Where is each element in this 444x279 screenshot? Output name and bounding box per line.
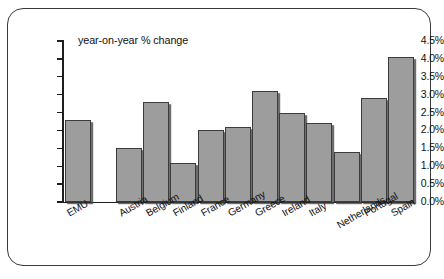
- y-axis-tick: [57, 58, 62, 59]
- y-axis-line: [62, 40, 64, 203]
- bar: [198, 130, 224, 202]
- y-axis-tick-label: 4.5%: [392, 34, 444, 46]
- y-axis-tick: [57, 183, 62, 184]
- bar-chart: year-on-year % change 0.0%0.5%1.0%1.5%2.…: [0, 0, 444, 279]
- bar: [225, 127, 251, 202]
- y-axis-tick: [57, 94, 62, 95]
- bar: [116, 148, 142, 202]
- bar: [334, 152, 360, 202]
- chart-title: year-on-year % change: [78, 34, 188, 46]
- bar: [306, 123, 332, 202]
- y-axis-tick: [57, 201, 62, 202]
- bar: [279, 113, 305, 202]
- y-axis-tick: [57, 130, 62, 131]
- bar: [252, 91, 278, 202]
- y-axis-tick: [57, 76, 62, 77]
- y-axis-tick: [57, 40, 62, 41]
- y-axis-tick: [57, 148, 62, 149]
- bar: [143, 102, 169, 202]
- y-axis-tick: [57, 112, 62, 113]
- bar: [65, 120, 91, 202]
- bar: [388, 57, 414, 202]
- y-axis-tick: [57, 166, 62, 167]
- bar: [361, 98, 387, 202]
